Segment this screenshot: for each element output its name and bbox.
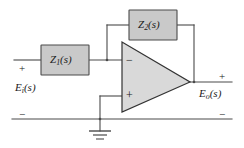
junction-output-node [193,81,196,84]
impedance-block-z1-label: Z1(s) [50,54,72,67]
input-voltage-label: Ei(s) [15,82,36,95]
junction-inverting-node [106,59,109,62]
input-symbol: E [15,81,22,93]
input-plus-sign: + [19,63,25,74]
output-symbol: E [199,87,206,99]
junction-ground-node [99,118,102,121]
input-minus-sign: − [19,109,25,120]
z1-arg: (s) [60,53,72,65]
opamp-inverting-input-sign: − [126,54,133,66]
output-voltage-label: Eo(s) [199,88,221,101]
ground-icon [89,131,111,139]
circuit-diagram [0,0,244,148]
output-minus-sign: − [219,109,225,120]
output-arg: (s) [210,87,222,99]
z2-arg: (s) [148,18,160,30]
input-arg: (s) [24,81,36,93]
opamp-noninverting-input-sign: + [126,89,133,101]
impedance-block-z2-label: Z2(s) [138,19,160,32]
output-plus-sign: + [219,71,225,82]
figure-canvas: Z1(s) Z2(s) − + + − Ei(s) + − Eo(s) [0,0,244,148]
